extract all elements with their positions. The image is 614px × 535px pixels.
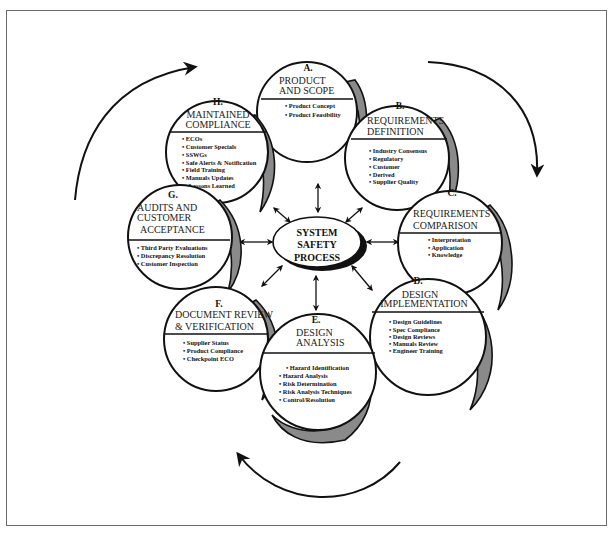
node-b-item: • Industry Consensus — [369, 147, 428, 154]
node-c-item: • Application — [428, 244, 464, 251]
node-a-item: • Product Concept — [285, 102, 336, 109]
node-h-title-2: COMPLIANCE — [185, 119, 250, 130]
node-c-letter: C. — [447, 188, 456, 198]
node-e-letter: E. — [312, 315, 321, 325]
node-h-item: • Field Training — [182, 166, 226, 173]
node-g-item: • Customer Inspection — [137, 260, 198, 267]
node-f-item: • Product Compliance — [183, 347, 243, 354]
center-system-safety-process: SYSTEM SAFETY PROCESS — [273, 217, 367, 271]
node-b-item: • Supplier Quality — [369, 178, 419, 185]
node-d-item: • Engineer Training — [389, 347, 444, 354]
system-safety-diagram: A. PRODUCT AND SCOPE • Product Concept •… — [0, 0, 614, 535]
node-e-item: • Hazard Identification — [286, 364, 349, 371]
node-b-item: • Customer — [369, 163, 400, 170]
center-line-2: SAFETY — [297, 239, 337, 250]
node-b-item: • Regulatory — [369, 155, 404, 162]
node-c-item: • Interpretation — [428, 236, 471, 243]
node-d-item: • Design Reviews — [389, 333, 436, 340]
center-line-3: PROCESS — [294, 252, 341, 263]
node-d-item: • Manuals Review — [389, 340, 438, 347]
node-g-item: • Third Party Evaluations — [137, 244, 208, 251]
node-f-title-2: & VERIFICATION — [175, 321, 254, 332]
node-c-title-2: COMPARISON — [413, 220, 478, 231]
node-e-item: • Control/Resolution — [279, 396, 335, 403]
node-e-title-2: ANALYSIS — [296, 337, 344, 348]
node-c-item: • Knowledge — [428, 251, 463, 258]
node-a-item: • Product Feasibility — [285, 111, 342, 118]
node-b-item: • Derived — [369, 171, 395, 178]
node-g-item: • Discrepancy Resolution — [137, 252, 206, 259]
node-h-item: • SSWGs — [182, 151, 207, 158]
node-f-title-1: DOCUMENT REVIEW — [175, 309, 273, 320]
node-e-item: • Risk Analysis Techniques — [279, 388, 352, 395]
node-h-item: • ECOs — [182, 135, 203, 142]
node-a-letter: A. — [303, 63, 312, 73]
node-e-item: • Risk Determination — [279, 380, 337, 387]
node-g-title-3: ACCEPTANCE — [140, 224, 205, 235]
node-h-item: • Customer Specials — [182, 143, 237, 150]
node-d-design-implementation: D. DESIGN IMPLEMENTATION • Design Guidel… — [370, 276, 492, 410]
node-d-title-2: IMPLEMENTATION — [380, 298, 468, 309]
node-g-letter: G. — [168, 190, 178, 200]
node-b-letter: B. — [396, 101, 405, 111]
node-h-item: • Manuals Updates — [182, 174, 234, 181]
node-f-item: • Checkpoint ECO — [183, 355, 234, 362]
node-e-design-analysis: E. DESIGN ANALYSIS • Hazard Identificati… — [260, 314, 376, 443]
node-b-title-2: DEFINITION — [367, 126, 424, 137]
node-f-item: • Supplier Status — [183, 339, 229, 346]
node-h-item: • Safe Alerts & Notification — [182, 159, 257, 166]
node-g-title-2: CUSTOMER — [137, 212, 192, 223]
node-f-letter: F. — [215, 299, 222, 309]
node-d-letter: D. — [413, 276, 422, 286]
node-d-item: • Spec Compliance — [389, 326, 440, 333]
center-line-1: SYSTEM — [296, 227, 338, 238]
node-a-title-2: AND SCOPE — [279, 85, 334, 96]
node-h-letter: H. — [213, 97, 223, 107]
node-c-title-1: REQUIREMENTS — [413, 208, 490, 219]
cycle-arrow-bottom — [238, 454, 400, 497]
node-b-title-1: REQUIREMENTS — [367, 115, 444, 126]
node-d-item: • Design Guidelines — [389, 318, 443, 325]
node-e-item: • Hazard Analysis — [279, 372, 328, 379]
